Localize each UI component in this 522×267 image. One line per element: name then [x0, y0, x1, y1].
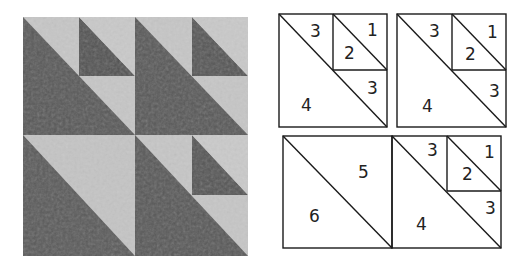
piece-label: 2 [462, 164, 473, 184]
piecing-diagram: 3 1 2 3 4 3 1 2 3 4 5 6 3 1 2 3 4 [0, 0, 522, 267]
piece-label: 1 [484, 142, 495, 162]
piece-label: 3 [489, 81, 500, 101]
piece-label: 3 [310, 21, 321, 41]
piece-label: 1 [367, 20, 378, 40]
piece-label: 3 [485, 198, 496, 218]
piece-label: 5 [358, 162, 369, 182]
piece-label: 1 [487, 22, 498, 42]
piece-label: 2 [344, 43, 355, 63]
piece-label: 2 [465, 44, 476, 64]
piece-label: 3 [367, 78, 378, 98]
piece-label: 4 [301, 95, 312, 115]
piece-label: 3 [429, 21, 440, 41]
piece-label: 4 [416, 214, 427, 234]
unit-bottom-left [283, 136, 392, 248]
piece-label: 4 [422, 96, 433, 116]
piece-label: 3 [427, 140, 438, 160]
piece-label: 6 [309, 206, 320, 226]
